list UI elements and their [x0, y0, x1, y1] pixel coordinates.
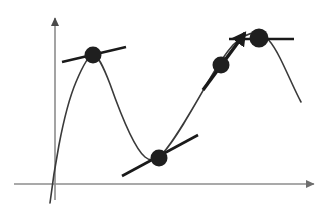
- tangent-lines-figure: [0, 0, 326, 216]
- point-marker-4: [250, 29, 269, 48]
- figure-canvas: [0, 0, 326, 216]
- point-marker-3: [213, 57, 230, 74]
- point-marker-2: [151, 150, 168, 167]
- point-marker-1: [85, 47, 102, 64]
- axes-group: [14, 18, 314, 200]
